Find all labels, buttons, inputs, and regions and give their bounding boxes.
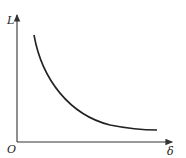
data-curve — [34, 35, 157, 130]
y-axis-label: L — [7, 15, 14, 26]
origin-label: O — [7, 144, 16, 155]
chart: L δ O — [0, 0, 186, 158]
plot-area — [0, 0, 186, 158]
x-axis-label: δ — [167, 146, 174, 157]
